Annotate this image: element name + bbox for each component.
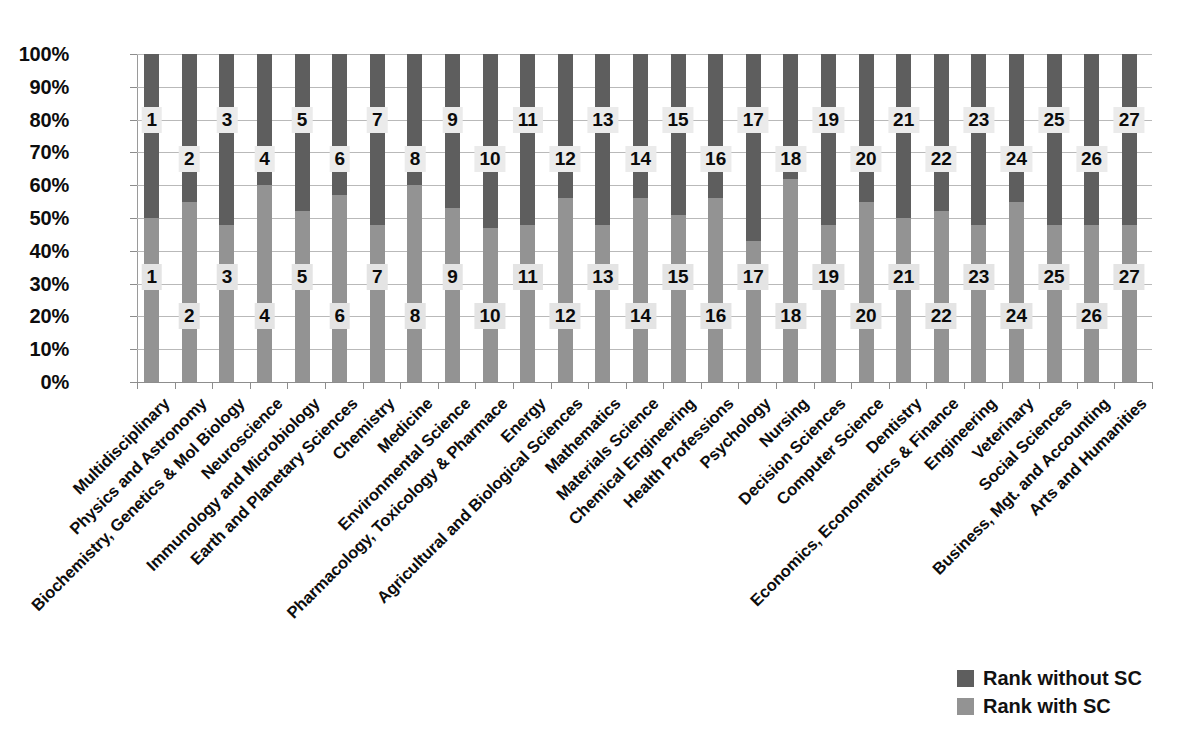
bar-segment-rank-with-sc[interactable] — [257, 185, 272, 382]
bar-column[interactable] — [595, 54, 610, 382]
bar-segment-rank-with-sc[interactable] — [1009, 202, 1024, 382]
data-label-rank-without-sc: 16 — [700, 146, 731, 172]
bar-column[interactable] — [520, 54, 535, 382]
plot-area: 1122334455667788991010111112121313141415… — [137, 54, 1152, 382]
bar-column[interactable] — [558, 54, 573, 382]
bar-column[interactable] — [407, 54, 422, 382]
bar-segment-rank-with-sc[interactable] — [783, 179, 798, 382]
data-label-rank-without-sc: 19 — [813, 107, 844, 133]
data-label-rank-without-sc: 5 — [292, 107, 313, 133]
data-label-rank-without-sc: 2 — [179, 146, 200, 172]
bar-segment-rank-without-sc[interactable] — [558, 54, 573, 198]
bar-column[interactable] — [971, 54, 986, 382]
bar-segment-rank-without-sc[interactable] — [896, 54, 911, 218]
bar-segment-rank-with-sc[interactable] — [746, 241, 761, 382]
y-axis-tick-label: 40% — [0, 239, 69, 262]
bar-segment-rank-with-sc[interactable] — [1122, 225, 1137, 382]
bar-segment-rank-with-sc[interactable] — [1047, 225, 1062, 382]
data-label-rank-with-sc: 8 — [405, 303, 426, 329]
bar-segment-rank-without-sc[interactable] — [144, 54, 159, 218]
bar-column[interactable] — [219, 54, 234, 382]
bar-column[interactable] — [671, 54, 686, 382]
bar-segment-rank-without-sc[interactable] — [295, 54, 310, 211]
bar-column[interactable] — [483, 54, 498, 382]
bar-segment-rank-with-sc[interactable] — [219, 225, 234, 382]
bar-column[interactable] — [1084, 54, 1099, 382]
bar-segment-rank-with-sc[interactable] — [407, 185, 422, 382]
bar-segment-rank-with-sc[interactable] — [934, 211, 949, 382]
bar-column[interactable] — [1047, 54, 1062, 382]
bar-segment-rank-without-sc[interactable] — [746, 54, 761, 241]
x-axis-tick-mark — [663, 382, 664, 389]
bar-segment-rank-without-sc[interactable] — [219, 54, 234, 225]
bar-segment-rank-without-sc[interactable] — [859, 54, 874, 202]
bar-column[interactable] — [295, 54, 310, 382]
data-label-rank-without-sc: 26 — [1076, 146, 1107, 172]
bar-column[interactable] — [633, 54, 648, 382]
bar-segment-rank-without-sc[interactable] — [1047, 54, 1062, 225]
data-label-rank-with-sc: 13 — [587, 264, 618, 290]
bar-segment-rank-without-sc[interactable] — [182, 54, 197, 202]
data-label-rank-with-sc: 23 — [963, 264, 994, 290]
x-axis-tick-mark — [701, 382, 702, 389]
bar-segment-rank-without-sc[interactable] — [332, 54, 347, 195]
bar-segment-rank-with-sc[interactable] — [821, 225, 836, 382]
bar-column[interactable] — [859, 54, 874, 382]
bar-column[interactable] — [1122, 54, 1137, 382]
bar-segment-rank-without-sc[interactable] — [370, 54, 385, 225]
bar-column[interactable] — [896, 54, 911, 382]
bar-segment-rank-without-sc[interactable] — [934, 54, 949, 211]
x-axis-tick-mark — [889, 382, 890, 389]
bar-segment-rank-without-sc[interactable] — [971, 54, 986, 225]
bar-segment-rank-without-sc[interactable] — [483, 54, 498, 228]
bar-column[interactable] — [708, 54, 723, 382]
bar-column[interactable] — [332, 54, 347, 382]
bar-segment-rank-without-sc[interactable] — [1084, 54, 1099, 225]
legend-item[interactable]: Rank without SC — [957, 664, 1177, 692]
bar-segment-rank-with-sc[interactable] — [520, 225, 535, 382]
bar-segment-rank-without-sc[interactable] — [821, 54, 836, 225]
bar-segment-rank-without-sc[interactable] — [520, 54, 535, 225]
bar-segment-rank-with-sc[interactable] — [595, 225, 610, 382]
data-label-rank-without-sc: 12 — [550, 146, 581, 172]
bar-segment-rank-with-sc[interactable] — [144, 218, 159, 382]
bar-column[interactable] — [144, 54, 159, 382]
bar-segment-rank-without-sc[interactable] — [1122, 54, 1137, 225]
bar-segment-rank-with-sc[interactable] — [445, 208, 460, 382]
bar-column[interactable] — [783, 54, 798, 382]
bar-column[interactable] — [1009, 54, 1024, 382]
data-label-rank-without-sc: 17 — [738, 107, 769, 133]
legend-swatch-icon — [957, 670, 974, 687]
bar-segment-rank-without-sc[interactable] — [595, 54, 610, 225]
bar-column[interactable] — [257, 54, 272, 382]
bar-segment-rank-without-sc[interactable] — [1009, 54, 1024, 202]
bar-segment-rank-without-sc[interactable] — [671, 54, 686, 215]
bar-column[interactable] — [821, 54, 836, 382]
x-axis-tick-mark — [287, 382, 288, 389]
bar-segment-rank-with-sc[interactable] — [708, 198, 723, 382]
legend-item[interactable]: Rank with SC — [957, 692, 1177, 720]
bar-segment-rank-with-sc[interactable] — [558, 198, 573, 382]
bar-column[interactable] — [934, 54, 949, 382]
bar-segment-rank-without-sc[interactable] — [633, 54, 648, 198]
bar-segment-rank-with-sc[interactable] — [671, 215, 686, 382]
x-axis-category-label: Environmental Science — [334, 394, 474, 534]
bar-segment-rank-with-sc[interactable] — [896, 218, 911, 382]
bar-column[interactable] — [445, 54, 460, 382]
bar-segment-rank-with-sc[interactable] — [332, 195, 347, 382]
data-label-rank-without-sc: 3 — [217, 107, 238, 133]
bar-column[interactable] — [370, 54, 385, 382]
bar-segment-rank-with-sc[interactable] — [859, 202, 874, 382]
bar-column[interactable] — [182, 54, 197, 382]
y-axis-tick-label: 60% — [0, 174, 69, 197]
bar-segment-rank-with-sc[interactable] — [370, 225, 385, 382]
x-axis-tick-mark — [1114, 382, 1115, 389]
bar-segment-rank-with-sc[interactable] — [633, 198, 648, 382]
data-label-rank-with-sc: 27 — [1114, 264, 1145, 290]
bar-segment-rank-with-sc[interactable] — [971, 225, 986, 382]
data-label-rank-without-sc: 6 — [329, 146, 350, 172]
bar-segment-rank-without-sc[interactable] — [708, 54, 723, 198]
bar-column[interactable] — [746, 54, 761, 382]
bar-segment-rank-with-sc[interactable] — [295, 211, 310, 382]
bar-segment-rank-with-sc[interactable] — [182, 202, 197, 382]
